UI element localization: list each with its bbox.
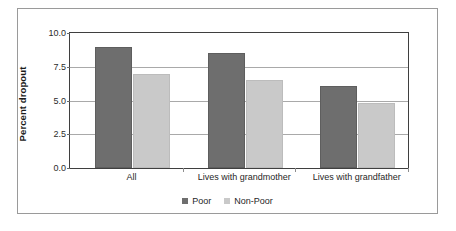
plot-area: 10.07.55.02.50.0 bbox=[69, 32, 409, 169]
y-axis-tick-mark bbox=[67, 134, 70, 135]
legend-label: Poor bbox=[192, 196, 211, 206]
bar-non-poor-0 bbox=[133, 74, 170, 169]
y-axis-tick-mark bbox=[67, 101, 70, 102]
chart-figure: Percent dropout 10.07.55.02.50.0 PoorNon… bbox=[17, 8, 438, 214]
legend-item-non-poor[interactable]: Non-Poor bbox=[224, 196, 273, 206]
x-axis-category-label: Lives with grandfather bbox=[313, 172, 401, 182]
bar-non-poor-1 bbox=[246, 80, 283, 168]
bar-non-poor-2 bbox=[358, 103, 395, 168]
y-axis-tick-label: 10.0 bbox=[48, 28, 66, 38]
x-axis-tick-mark bbox=[295, 168, 296, 172]
y-axis-tick-label: 7.5 bbox=[53, 62, 66, 72]
bar-poor-2 bbox=[320, 86, 357, 168]
x-axis-category-label: Lives with grandmother bbox=[198, 172, 291, 182]
y-axis-title: Percent dropout bbox=[17, 49, 31, 159]
x-axis-tick-mark bbox=[408, 168, 409, 172]
y-axis-tick-label: 0.0 bbox=[53, 163, 66, 173]
legend-label: Non-Poor bbox=[234, 196, 273, 206]
y-axis-tick-label: 5.0 bbox=[53, 96, 66, 106]
y-axis-tick-mark bbox=[67, 168, 70, 169]
legend-swatch-icon bbox=[224, 198, 230, 204]
bar-poor-0 bbox=[95, 47, 132, 169]
bar-poor-1 bbox=[208, 53, 245, 168]
chart-legend: PoorNon-Poor bbox=[18, 196, 437, 206]
legend-swatch-icon bbox=[182, 198, 188, 204]
x-axis-category-label: All bbox=[126, 172, 136, 182]
y-axis-tick-mark bbox=[67, 67, 70, 68]
legend-item-poor[interactable]: Poor bbox=[182, 196, 211, 206]
x-axis-tick-mark bbox=[183, 168, 184, 172]
y-axis-tick-label: 2.5 bbox=[53, 129, 66, 139]
y-axis-tick-mark bbox=[67, 33, 70, 34]
